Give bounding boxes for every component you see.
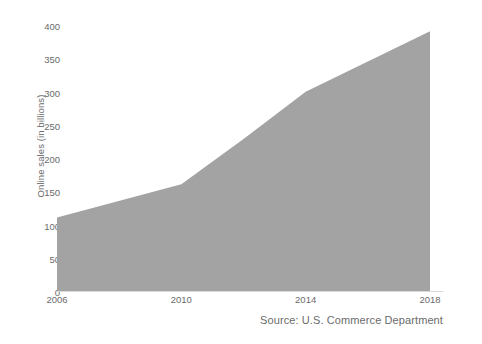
plot-area xyxy=(57,18,443,292)
online-sales-area-chart: Online sales (in billions) 4003503002502… xyxy=(0,0,482,344)
x-tick-label: 2006 xyxy=(46,294,67,305)
x-tick-label: 2014 xyxy=(295,294,316,305)
area-series-online-sales xyxy=(57,18,443,292)
x-axis-line xyxy=(57,291,443,292)
x-axis-tick-labels: 2006201020142018 xyxy=(0,294,482,310)
area-fill-path xyxy=(57,31,430,292)
x-tick-label: 2010 xyxy=(171,294,192,305)
x-tick-label: 2018 xyxy=(419,294,440,305)
source-note: Source: U.S. Commerce Department xyxy=(260,314,443,326)
